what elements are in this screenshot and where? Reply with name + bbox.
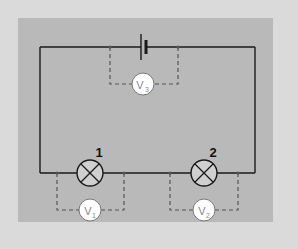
junction-dot [176, 45, 179, 48]
battery-cell-icon [141, 34, 146, 60]
lamp-1-label: 1 [95, 145, 102, 160]
junction-dot [236, 171, 239, 174]
junction-dot [168, 171, 171, 174]
junction-dot [122, 171, 125, 174]
voltmeter-v2: V 2 [193, 199, 215, 221]
voltmeter-v1-subscript: 1 [92, 212, 96, 219]
lamp-1: 1 [77, 145, 103, 186]
voltmeter-v3: V 3 [132, 73, 154, 95]
junction-dot [108, 45, 111, 48]
lamp-2-label: 2 [209, 145, 216, 160]
circuit-diagram: V 3 1 2 V 1 V 2 [0, 0, 298, 249]
circuit-wires [40, 47, 255, 173]
junction-dot [55, 171, 58, 174]
voltmeter-v3-letter: V [136, 79, 144, 91]
voltmeter-v2-subscript: 2 [206, 212, 210, 219]
voltmeter-v1: V 1 [79, 199, 101, 221]
voltmeter-v3-subscript: 3 [145, 86, 149, 93]
lamp-2: 2 [191, 145, 217, 186]
